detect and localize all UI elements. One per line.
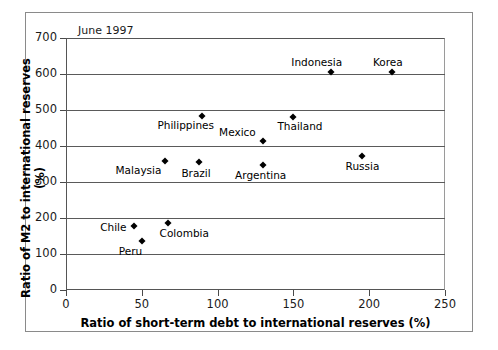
y-tick-400 [60, 146, 66, 147]
gridline-y-600 [66, 74, 445, 75]
point-label-indonesia: Indonesia [291, 57, 342, 68]
gridline-y-400 [66, 146, 445, 147]
x-tick-250 [445, 290, 446, 296]
y-tick-500 [60, 110, 66, 111]
y-tick-700 [60, 38, 66, 39]
x-tick-label-150: 150 [282, 299, 304, 311]
x-tick-label-0: 0 [62, 299, 69, 311]
x-tick-200 [369, 290, 370, 296]
y-tick-200 [60, 218, 66, 219]
x-tick-150 [293, 290, 294, 296]
x-tick-100 [218, 290, 219, 296]
point-label-malaysia: Malaysia [116, 165, 162, 176]
point-label-mexico: Mexico [219, 127, 256, 138]
y-axis-title: Ratio of M2 to international reserves (%… [19, 52, 47, 304]
point-label-thailand: Thailand [277, 121, 322, 132]
point-label-russia: Russia [346, 161, 380, 172]
plot-area: 0100200300400500600700 050100150200250 I… [66, 38, 445, 290]
point-label-chile: Chile [100, 222, 126, 233]
x-axis-title: Ratio of short-term debt to internationa… [66, 316, 445, 330]
y-tick-300 [60, 182, 66, 183]
point-label-philippines: Philippines [157, 120, 214, 131]
chart-figure: 0100200300400500600700 050100150200250 I… [0, 0, 498, 350]
x-tick-label-250: 250 [434, 299, 456, 311]
x-tick-label-200: 200 [358, 299, 380, 311]
gridline-y-200 [66, 218, 445, 219]
point-label-argentina: Argentina [235, 170, 286, 181]
x-tick-label-50: 50 [134, 299, 149, 311]
point-label-colombia: Colombia [160, 228, 209, 239]
x-tick-0 [66, 290, 67, 296]
point-label-korea: Korea [373, 57, 403, 68]
point-label-brazil: Brazil [181, 168, 210, 179]
y-tick-600 [60, 74, 66, 75]
x-tick-label-100: 100 [207, 299, 229, 311]
gridline-y-500 [66, 110, 445, 111]
point-label-peru: Peru [119, 246, 142, 257]
y-tick-label-0: 0 [50, 284, 57, 296]
y-tick-100 [60, 254, 66, 255]
x-tick-50 [142, 290, 143, 296]
y-tick-label-700: 700 [35, 32, 57, 44]
chart-annotation: June 1997 [78, 24, 133, 37]
gridline-y-300 [66, 182, 445, 183]
